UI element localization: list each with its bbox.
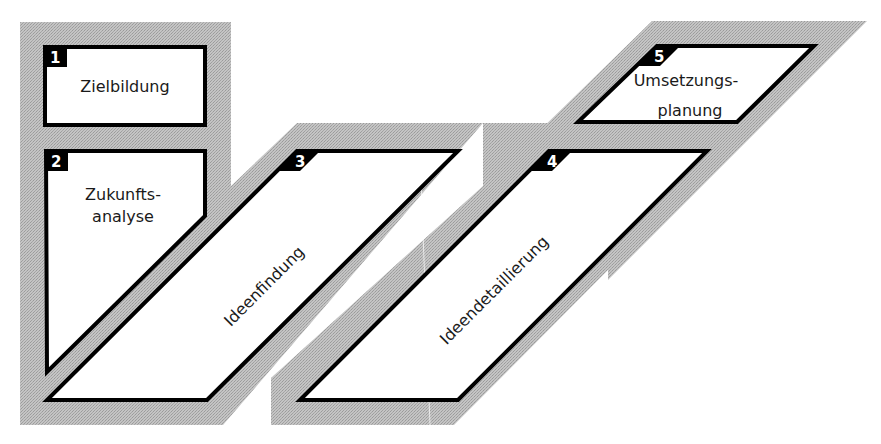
step-3-number: 3 [295, 153, 305, 171]
step-1: 1 Zielbildung [45, 47, 205, 125]
step-2-number: 2 [51, 153, 61, 171]
step-5-label-line2: planung [658, 101, 723, 120]
process-diagram: 1 Zielbildung 2 Zukunfts- analyse 3 Idee… [0, 0, 881, 444]
step-5-label-line1: Umsetzungs- [634, 71, 739, 90]
step-2-label-line2: analyse [92, 207, 154, 226]
step-2-label-line1: Zukunfts- [85, 185, 161, 204]
step-1-number: 1 [50, 49, 60, 67]
step-5-number: 5 [654, 48, 664, 66]
step-4-number: 4 [547, 153, 557, 171]
step-1-label: Zielbildung [80, 77, 169, 96]
